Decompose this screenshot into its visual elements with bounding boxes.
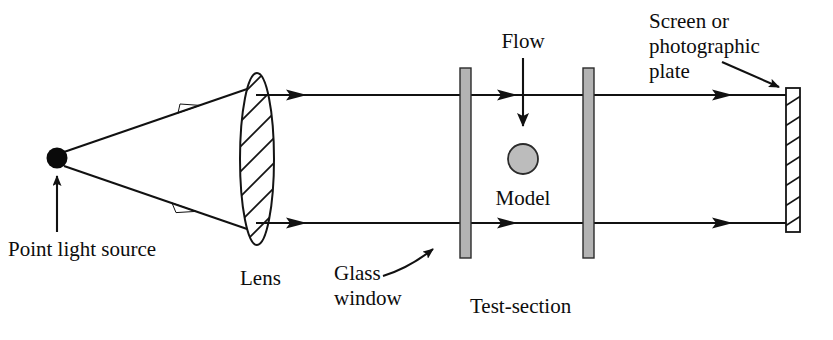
divergent-ray-lower — [64, 166, 250, 230]
label-flow: Flow — [501, 29, 545, 53]
screen-element — [782, 88, 804, 232]
divergent-ray-upper — [64, 88, 250, 152]
label-lens: Lens — [240, 266, 281, 290]
glass-window-right — [583, 68, 594, 258]
optical-setup-diagram: Point light source Lens Glass window Tes… — [0, 0, 833, 340]
glass-window-pointer-arrow — [383, 249, 433, 276]
schematic-canvas: Point light source Lens Glass window Tes… — [0, 0, 833, 340]
label-screen-line3: plate — [649, 59, 690, 83]
screen-outline — [786, 88, 800, 232]
label-screen-line1: Screen or — [649, 9, 729, 33]
label-model: Model — [496, 186, 551, 210]
model-circle — [508, 144, 538, 174]
label-test-section: Test-section — [470, 294, 572, 318]
label-screen-line2: photographic — [649, 34, 760, 58]
screen-pointer-arrow — [722, 62, 779, 87]
label-point-light-source: Point light source — [8, 237, 156, 261]
glass-window-left — [460, 68, 471, 258]
point-light-source-dot — [47, 148, 68, 169]
label-glass-window-line2: window — [334, 286, 403, 310]
label-glass-window-line1: Glass — [334, 261, 381, 285]
divergent-ray-cone — [64, 88, 250, 230]
